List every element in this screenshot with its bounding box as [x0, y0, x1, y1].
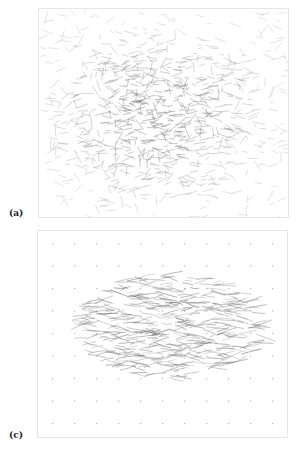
panel-label-c: (c)	[9, 430, 23, 440]
panel-label-a: (a)	[9, 208, 23, 218]
fiber-network-image-a	[39, 9, 288, 217]
figure-panel-a	[38, 8, 289, 218]
fiber-cluster-image-c	[38, 231, 287, 437]
figure-panel-c	[37, 230, 288, 438]
